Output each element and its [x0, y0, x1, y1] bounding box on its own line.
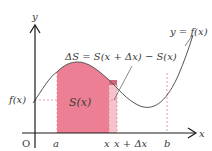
delta-strip [109, 80, 117, 133]
area-label: S(x) [69, 96, 91, 109]
origin-label: O [22, 138, 30, 149]
x-plus-dx-tick-label: x + Δx [114, 138, 148, 149]
x-axis-label: x [199, 128, 205, 139]
fx-tick-label: f(x) [8, 94, 26, 105]
curve-label: y = f(x) [169, 26, 208, 37]
x-tick-label: x [104, 138, 110, 149]
area-function-diagram: y x O f(x) a x x + Δx b S(x) ΔS = S(x + … [0, 0, 212, 151]
y-axis-label: y [31, 11, 38, 22]
b-tick-label: b [164, 138, 170, 149]
a-tick-label: a [53, 138, 59, 149]
delta-formula: ΔS = S(x + Δx) − S(x) [64, 51, 177, 62]
